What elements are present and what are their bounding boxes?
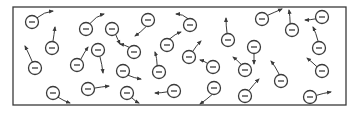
electron — [46, 27, 59, 55]
electron — [286, 10, 299, 37]
electron — [271, 61, 288, 88]
velocity-arrow-icon — [249, 79, 259, 91]
electron — [153, 52, 166, 79]
velocity-arrow-icon — [316, 92, 331, 95]
velocity-arrow-icon — [155, 92, 168, 93]
velocity-arrow-icon — [94, 86, 109, 88]
electron — [304, 91, 332, 104]
velocity-arrow-icon — [128, 75, 141, 79]
velocity-arrow-icon — [170, 32, 181, 39]
velocity-arrow-icon — [81, 47, 88, 60]
electron — [26, 11, 54, 29]
electron — [120, 44, 141, 59]
electron — [305, 11, 329, 24]
velocity-arrow-icon — [132, 98, 139, 103]
electron — [222, 18, 235, 47]
electron — [161, 32, 182, 52]
electron — [47, 87, 71, 104]
velocity-arrow-icon — [289, 10, 290, 24]
electron — [256, 9, 283, 26]
electron — [117, 65, 142, 80]
electron — [183, 41, 202, 64]
electron — [135, 14, 155, 37]
electrons-group — [25, 9, 331, 104]
velocity-arrow-icon — [25, 46, 32, 62]
electron — [71, 47, 89, 72]
velocity-arrow-icon — [305, 19, 316, 20]
velocity-arrow-icon — [233, 57, 241, 65]
electron — [200, 82, 221, 105]
velocity-arrow-icon — [135, 26, 146, 36]
velocity-arrow-icon — [307, 58, 317, 67]
velocity-arrow-icon — [313, 27, 318, 42]
electron — [233, 57, 252, 77]
velocity-arrow-icon — [155, 52, 157, 66]
velocity-arrow-icon — [100, 56, 103, 73]
velocity-arrow-icon — [176, 14, 188, 19]
electron — [200, 60, 220, 74]
velocity-arrow-icon — [193, 41, 201, 52]
electron-motion-diagram — [0, 0, 360, 113]
velocity-arrow-icon — [267, 9, 282, 15]
electron — [313, 27, 326, 55]
velocity-arrow-icon — [53, 27, 55, 42]
velocity-arrow-icon — [120, 44, 129, 47]
velocity-arrow-icon — [271, 61, 279, 75]
velocity-arrow-icon — [226, 18, 227, 34]
velocity-arrow-icon — [200, 94, 212, 104]
velocity-arrow-icon — [58, 97, 70, 103]
velocity-arrow-icon — [200, 60, 208, 63]
electron — [307, 58, 329, 78]
velocity-arrow-icon — [90, 14, 104, 24]
velocity-arrow-icon — [37, 11, 53, 18]
velocity-arrow-icon — [116, 34, 120, 44]
electron — [25, 46, 42, 75]
electron — [248, 41, 261, 65]
electron — [92, 44, 105, 74]
electron — [155, 85, 181, 98]
electron — [176, 14, 197, 32]
electron — [239, 79, 260, 103]
electron — [106, 23, 121, 45]
electron — [80, 14, 105, 36]
electron — [82, 83, 110, 96]
electron — [121, 87, 140, 104]
